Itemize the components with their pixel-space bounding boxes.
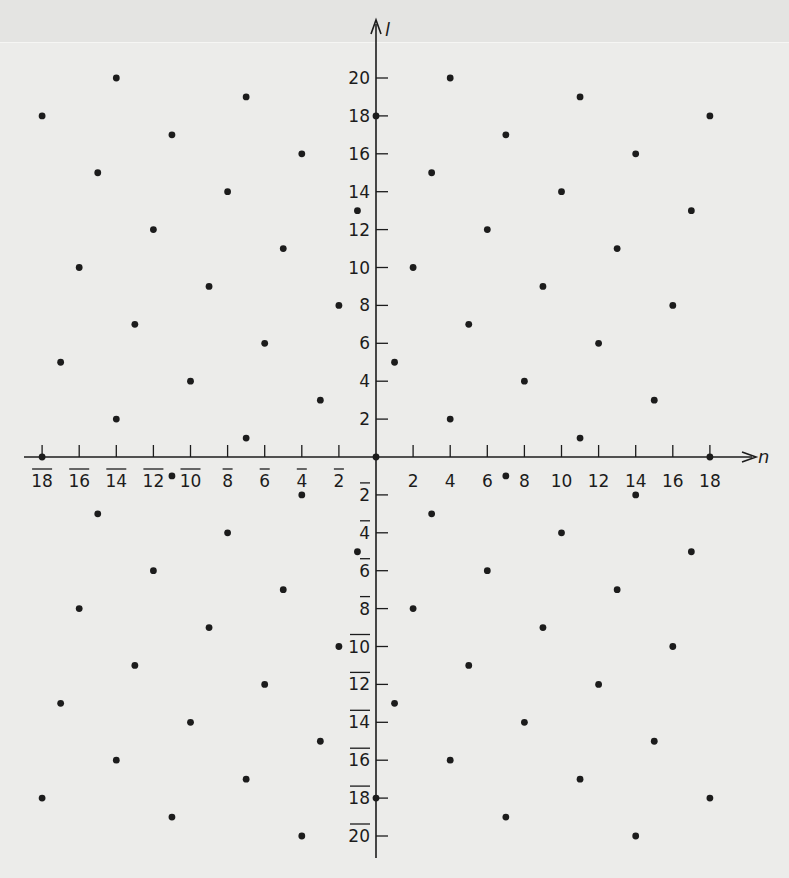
y-tick-label: 2: [359, 485, 370, 505]
y-tick-label: 20: [348, 826, 370, 846]
lattice-point: [113, 75, 120, 82]
y-tick-label: 8: [359, 295, 370, 315]
lattice-point: [57, 359, 64, 366]
lattice-point: [707, 454, 714, 461]
lattice-point: [410, 264, 417, 271]
lattice-point: [243, 776, 250, 783]
lattice-point: [484, 226, 491, 233]
lattice-point: [131, 662, 138, 669]
lattice-point: [150, 567, 157, 574]
lattice-point: [577, 435, 584, 442]
x-tick-label: 16: [662, 471, 684, 491]
lattice-point: [669, 643, 676, 650]
y-tick-label: 10: [348, 637, 370, 657]
lattice-point: [76, 605, 83, 612]
lattice-point: [632, 492, 639, 499]
lattice-point: [298, 150, 305, 157]
lattice-point: [57, 700, 64, 707]
lattice-point: [113, 757, 120, 764]
x-tick-label: 18: [699, 471, 721, 491]
x-tick-label: 10: [180, 471, 202, 491]
lattice-point: [595, 681, 602, 688]
y-tick-label: 14: [348, 182, 370, 202]
y-tick-label: 6: [359, 561, 370, 581]
lattice-point: [614, 245, 621, 252]
lattice-point: [113, 416, 120, 423]
lattice-point: [224, 529, 231, 536]
lattice-point: [280, 245, 287, 252]
y-tick-label: 2: [359, 409, 370, 429]
lattice-point: [688, 548, 695, 555]
lattice-point: [502, 814, 509, 821]
scatter-plot: 1816141210864224681012141618201816141210…: [0, 0, 789, 878]
x-tick-label: 14: [625, 471, 647, 491]
lattice-point: [577, 94, 584, 101]
lattice-point: [651, 738, 658, 745]
lattice-point: [261, 340, 268, 347]
y-tick-label: 12: [348, 220, 370, 240]
lattice-point: [632, 833, 639, 840]
lattice-point: [447, 416, 454, 423]
y-tick-label: 16: [348, 144, 370, 164]
lattice-point: [354, 207, 361, 214]
y-tick-label: 4: [359, 371, 370, 391]
x-tick-label: 18: [31, 471, 53, 491]
lattice-point: [465, 321, 472, 328]
lattice-point: [94, 510, 101, 517]
x-tick-label: 12: [143, 471, 165, 491]
lattice-point: [243, 435, 250, 442]
lattice-point: [558, 188, 565, 195]
y-tick-label: 10: [348, 258, 370, 278]
lattice-point: [391, 359, 398, 366]
x-tick-label: 12: [588, 471, 610, 491]
lattice-point: [595, 340, 602, 347]
lattice-point: [336, 302, 343, 309]
lattice-point: [502, 473, 509, 480]
lattice-point: [39, 795, 46, 802]
x-tick-label: 4: [445, 471, 456, 491]
lattice-point: [39, 113, 46, 120]
lattice-point: [373, 454, 380, 461]
lattice-point: [354, 548, 361, 555]
x-tick-label: 4: [296, 471, 307, 491]
lattice-point: [280, 586, 287, 593]
lattice-point: [540, 624, 547, 631]
lattice-point: [484, 567, 491, 574]
lattice-point: [131, 321, 138, 328]
y-tick-label: 6: [359, 333, 370, 353]
lattice-point: [540, 283, 547, 290]
lattice-point: [614, 586, 621, 593]
axes: [24, 20, 756, 858]
lattice-point: [206, 624, 213, 631]
lattice-point: [336, 643, 343, 650]
y-tick-label: 4: [359, 523, 370, 543]
x-tick-label: 6: [482, 471, 493, 491]
lattice-point: [187, 378, 194, 385]
lattice-point: [373, 795, 380, 802]
lattice-point: [447, 757, 454, 764]
x-tick-label: 10: [551, 471, 573, 491]
x-tick-label: 2: [333, 471, 344, 491]
lattice-point: [632, 150, 639, 157]
lattice-point: [261, 681, 268, 688]
lattice-point: [428, 169, 435, 176]
lattice-point: [169, 131, 176, 138]
lattice-point: [206, 283, 213, 290]
x-tick-label: 14: [105, 471, 127, 491]
lattice-point: [521, 719, 528, 726]
x-tick-label: 8: [222, 471, 233, 491]
x-axis-label: n: [758, 446, 769, 467]
y-tick-label: 8: [359, 599, 370, 619]
y-tick-label: 14: [348, 712, 370, 732]
lattice-point: [502, 131, 509, 138]
lattice-point: [521, 378, 528, 385]
y-tick-label: 12: [348, 674, 370, 694]
lattice-point: [465, 662, 472, 669]
lattice-point: [94, 169, 101, 176]
lattice-point: [243, 94, 250, 101]
x-tick-label: 2: [408, 471, 419, 491]
x-tick-label: 8: [519, 471, 530, 491]
y-tick-label: 16: [348, 750, 370, 770]
lattice-point: [76, 264, 83, 271]
lattice-point: [651, 397, 658, 404]
